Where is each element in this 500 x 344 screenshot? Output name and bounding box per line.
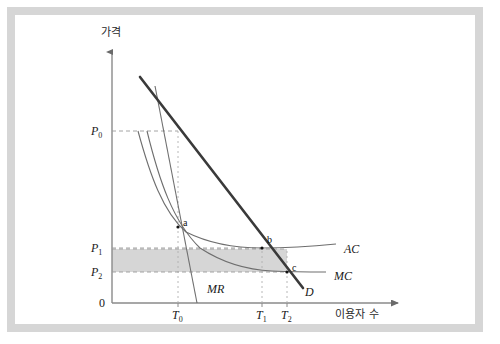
y-tick-p2: P2 <box>90 265 102 281</box>
point-label-b: b <box>267 234 272 245</box>
shaded-deficit-region <box>112 249 287 272</box>
y-tick-p1: P1 <box>90 241 102 257</box>
point-marker-a <box>176 225 179 228</box>
x-tick-t0: T0 <box>172 308 183 324</box>
curve-label-mr: MR <box>206 282 225 296</box>
point-marker-c <box>285 270 288 273</box>
y-axis-title: 가격 <box>101 26 121 39</box>
x-tick-t1: T1 <box>256 308 267 324</box>
figure-root: a b c AC MC D MR P0 P1 P2 0 T0 T1 T2 <box>0 0 500 344</box>
y-tick-p0: P0 <box>90 124 102 140</box>
origin-label: 0 <box>99 296 105 310</box>
point-label-c: c <box>292 262 297 273</box>
economics-plot: a b c AC MC D MR P0 P1 P2 0 T0 T1 T2 <box>0 0 500 344</box>
point-label-a: a <box>183 217 188 228</box>
x-tick-t2: T2 <box>281 308 292 324</box>
curve-label-mc: MC <box>333 269 353 283</box>
curve-label-ac: AC <box>343 242 360 256</box>
curve-label-d: D <box>304 285 314 299</box>
average-cost-curve <box>138 131 336 248</box>
x-axis-title: 이용자 수 <box>335 308 379 321</box>
point-marker-b <box>260 246 263 249</box>
